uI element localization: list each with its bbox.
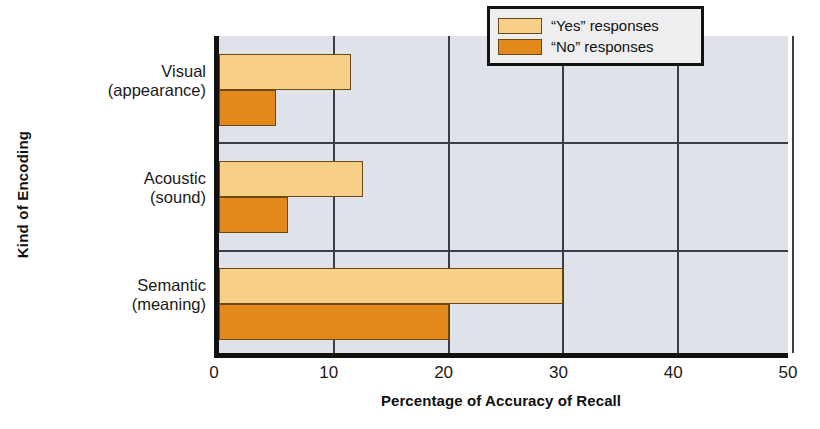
category-label-line2: (appearance) [34, 81, 206, 100]
legend-label-no: “No” responses [551, 38, 654, 55]
x-axis-tick-label: 40 [664, 363, 683, 383]
category-separator-gridline [219, 250, 788, 252]
x-axis-title: Percentage of Accuracy of Recall [214, 392, 788, 409]
category-label-line1: Acoustic [34, 169, 206, 188]
bar-semantic-yes [219, 268, 563, 304]
legend-box: “Yes” responses “No” responses [487, 6, 704, 66]
category-label-line1: Visual [34, 62, 206, 81]
bar-visual-yes [219, 54, 351, 90]
legend-swatch-no-icon [498, 39, 542, 55]
bar-acoustic-no [219, 197, 288, 233]
legend-label-yes: “Yes” responses [551, 17, 659, 34]
category-label-semantic: Semantic (meaning) [34, 276, 214, 315]
category-label-line1: Semantic [34, 276, 206, 295]
bar-semantic-no [219, 304, 449, 340]
x-gridline [562, 36, 564, 353]
plot-area [214, 36, 788, 358]
category-separator-gridline [219, 142, 788, 144]
legend-item-yes: “Yes” responses [498, 15, 691, 36]
category-label-line2: (meaning) [34, 295, 206, 314]
x-axis-tick-label: 10 [319, 363, 338, 383]
x-axis-tick-label: 20 [434, 363, 453, 383]
x-gridline [792, 36, 794, 353]
x-axis-tick-label: 50 [779, 363, 798, 383]
bar-acoustic-yes [219, 161, 363, 197]
legend-swatch-yes-icon [498, 18, 542, 34]
x-axis-tick-label: 30 [549, 363, 568, 383]
category-label-visual: Visual (appearance) [34, 62, 214, 101]
category-label-line2: (sound) [34, 188, 206, 207]
bar-visual-no [219, 90, 276, 126]
legend-item-no: “No” responses [498, 36, 691, 57]
x-axis-tick-label: 0 [209, 363, 218, 383]
plot-inner [219, 36, 788, 353]
x-axis-tick-group: 01020304050 [214, 363, 788, 389]
category-label-acoustic: Acoustic (sound) [34, 169, 214, 208]
x-gridline [677, 36, 679, 353]
bar-chart-figure: Kind of Encoding Visual (appearance) Aco… [0, 0, 820, 429]
category-label-group: Visual (appearance) Acoustic (sound) Sem… [20, 0, 214, 429]
